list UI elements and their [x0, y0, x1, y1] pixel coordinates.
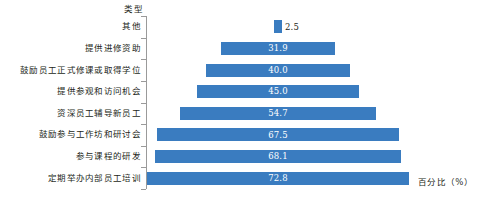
bar-value-label: 31.9	[268, 44, 288, 53]
bar: 31.9	[221, 42, 336, 55]
bar-value-label: 68.1	[268, 152, 288, 161]
bar-row: 72.8	[147, 171, 409, 185]
category-label: 定期举办内部员工培训	[48, 174, 141, 183]
bar-row: 45.0	[147, 85, 409, 99]
bar-value-label: 40.0	[268, 66, 288, 75]
axis-tick	[141, 146, 146, 147]
bar-row: 31.9	[147, 41, 409, 55]
bar-value-label: 2.5	[285, 23, 299, 32]
bar-row: 40.0	[147, 63, 409, 77]
axis-tick	[141, 103, 146, 104]
axis-tick	[141, 81, 146, 82]
figure-caption	[0, 198, 490, 205]
axis-tick	[141, 16, 146, 17]
bar: 40.0	[206, 64, 350, 77]
axis-tick	[141, 59, 146, 60]
bar-value-label: 45.0	[268, 87, 288, 96]
bar-row: 68.1	[147, 150, 409, 164]
bar-value-label: 67.5	[268, 131, 288, 140]
bar-row: 54.7	[147, 106, 409, 120]
bar-value-label: 54.7	[268, 109, 288, 118]
bar: 67.5	[157, 128, 400, 141]
axis-tick	[141, 124, 146, 125]
plot-area: 2.531.940.045.054.767.568.172.8	[147, 16, 409, 189]
category-label: 其他	[122, 22, 141, 31]
axis-tick	[141, 189, 146, 190]
bar: 72.8	[147, 172, 409, 185]
category-label: 鼓励员工正式修课或取得学位	[20, 66, 141, 75]
bar: 2.5	[274, 20, 283, 33]
value-axis-title: 百分比（%）	[418, 175, 473, 187]
bar: 68.1	[155, 150, 400, 163]
bar-value-label: 72.8	[268, 174, 288, 183]
axis-tick	[141, 167, 146, 168]
bar: 45.0	[197, 85, 359, 98]
category-label: 鼓励参与工作坊和研讨会	[39, 130, 141, 139]
bar-row: 67.5	[147, 128, 409, 142]
category-label: 提供进修资助	[85, 44, 141, 53]
funnel-bar-chart: 类型 2.531.940.045.054.767.568.172.8 百分比（%…	[0, 0, 490, 205]
axis-tick	[141, 38, 146, 39]
category-label: 提供参观和访问机会	[57, 87, 141, 96]
bar: 54.7	[180, 107, 377, 120]
category-axis-title: 类型	[124, 2, 143, 14]
category-label: 参与课程的研发	[76, 152, 141, 161]
bar-row: 2.5	[147, 20, 409, 34]
category-label: 资深员工辅导新员工	[57, 109, 141, 118]
